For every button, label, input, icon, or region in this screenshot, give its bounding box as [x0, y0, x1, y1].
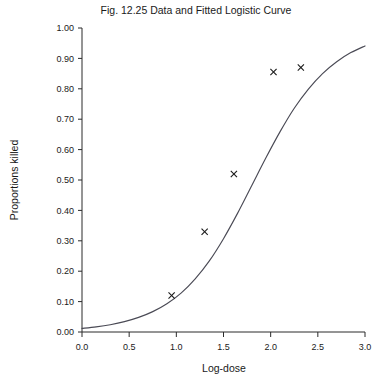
x-axis-label: Log-dose	[202, 362, 246, 374]
x-tick-label: 1.5	[217, 342, 230, 352]
y-tick-label: 0.50	[56, 175, 74, 185]
x-tick-label: 2.5	[312, 342, 325, 352]
x-tick-label: 0.5	[123, 342, 136, 352]
y-tick-label: 0.00	[56, 327, 74, 337]
y-tick-label: 0.10	[56, 297, 74, 307]
y-tick-label: 0.60	[56, 145, 74, 155]
y-tick-label: 0.20	[56, 266, 74, 276]
x-tick-label: 1.0	[170, 342, 183, 352]
y-tick-label: 0.90	[56, 54, 74, 64]
y-tick-label: 0.80	[56, 84, 74, 94]
y-tick-label: 1.00	[56, 23, 74, 33]
x-tick-label: 3.0	[359, 342, 372, 352]
x-tick-label: 2.0	[264, 342, 277, 352]
y-axis-label: Proportions killed	[8, 140, 20, 221]
y-tick-label: 0.70	[56, 114, 74, 124]
x-tick-label: 0.0	[76, 342, 89, 352]
logistic-curve-figure: Fig. 12.25 Data and Fitted Logistic Curv…	[0, 0, 391, 383]
y-tick-label: 0.40	[56, 206, 74, 216]
chart-title: Fig. 12.25 Data and Fitted Logistic Curv…	[101, 4, 292, 16]
y-tick-label: 0.30	[56, 236, 74, 246]
